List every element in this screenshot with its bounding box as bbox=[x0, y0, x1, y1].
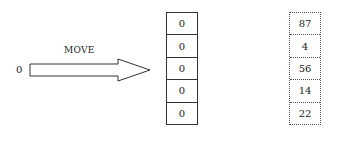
array-cell: 0 bbox=[167, 58, 197, 80]
array-cell: 56 bbox=[290, 58, 320, 80]
array-cell: 87 bbox=[290, 13, 320, 35]
array-cell: 22 bbox=[290, 103, 320, 124]
original-array: 87 4 56 14 22 bbox=[289, 12, 321, 125]
array-cell: 0 bbox=[167, 35, 197, 57]
array-cell: 4 bbox=[290, 35, 320, 57]
array-cell: 0 bbox=[167, 103, 197, 124]
array-cell: 14 bbox=[290, 80, 320, 102]
array-cell: 0 bbox=[167, 13, 197, 35]
array-cell: 0 bbox=[167, 80, 197, 102]
destination-array: 0 0 0 0 0 bbox=[166, 12, 198, 125]
